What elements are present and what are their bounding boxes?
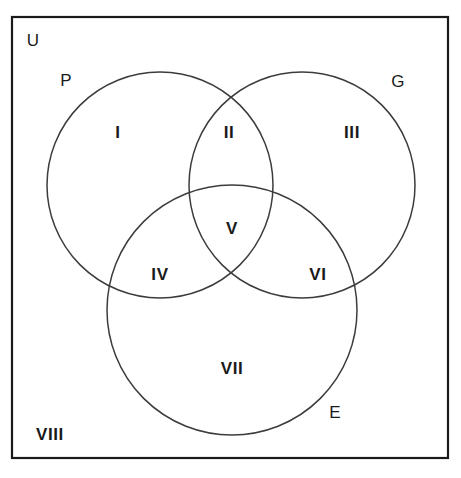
region-label-p-g: II	[224, 124, 235, 141]
universe-rectangle	[12, 17, 448, 458]
set-label-g: G	[391, 73, 404, 90]
universe-label: U	[27, 32, 39, 49]
region-label-p-only: I	[115, 124, 120, 141]
region-label-outside: VIII	[36, 426, 64, 443]
set-label-p: P	[60, 72, 72, 89]
set-label-e: E	[329, 404, 341, 421]
region-label-p-g-e: V	[226, 220, 238, 237]
region-label-g-e: VI	[309, 266, 326, 283]
region-label-g-only: III	[344, 124, 360, 141]
region-label-e-only: VII	[221, 360, 244, 377]
venn-diagram: U P G E I II III V IV VI VII VIII	[0, 0, 461, 478]
region-label-p-e: IV	[151, 266, 168, 283]
